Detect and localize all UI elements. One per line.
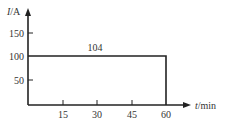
annotation-104: 104 bbox=[88, 42, 103, 53]
x-axis-label: t/min bbox=[195, 100, 216, 111]
y-tick-label-100: 100 bbox=[9, 51, 24, 62]
y-tick-label-150: 150 bbox=[9, 28, 24, 39]
y-axis-arrow-icon bbox=[25, 8, 31, 16]
x-tick-label-30: 30 bbox=[92, 109, 102, 120]
x-tick-label-60: 60 bbox=[161, 109, 171, 120]
x-axis-arrow-icon bbox=[183, 102, 191, 108]
y-axis-label: I/A bbox=[6, 6, 21, 17]
chart: I/A 150 100 50 15 30 45 60 t/min 104 bbox=[0, 0, 226, 131]
x-tick-label-15: 15 bbox=[58, 109, 68, 120]
y-tick-label-50: 50 bbox=[14, 75, 24, 86]
x-tick-label-45: 45 bbox=[127, 109, 137, 120]
current-line bbox=[28, 56, 166, 105]
